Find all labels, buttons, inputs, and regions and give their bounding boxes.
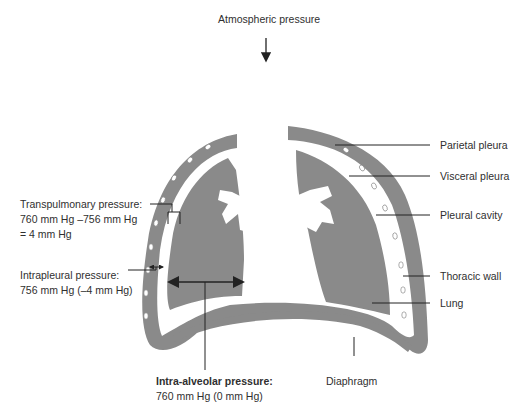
diaphragm-label: Diaphragm — [326, 374, 377, 389]
lung-label: Lung — [440, 296, 463, 311]
parietal-pleura-label: Parietal pleura — [440, 138, 508, 153]
intrapleural-label: Intrapleural pressure: 756 mm Hg (–4 mm … — [20, 268, 133, 298]
transpulmonary-label: Transpulmonary pressure: 760 mm Hg –756 … — [20, 197, 142, 242]
thoracic-wall-label: Thoracic wall — [440, 269, 501, 284]
atmospheric-pressure-label: Atmospheric pressure — [218, 12, 320, 27]
pleural-cavity-label: Pleural cavity — [440, 208, 502, 223]
intraalveolar-label: Intra-alveolar pressure: 760 mm Hg (0 mm… — [156, 374, 273, 404]
visceral-pleura-label: Visceral pleura — [440, 169, 509, 184]
